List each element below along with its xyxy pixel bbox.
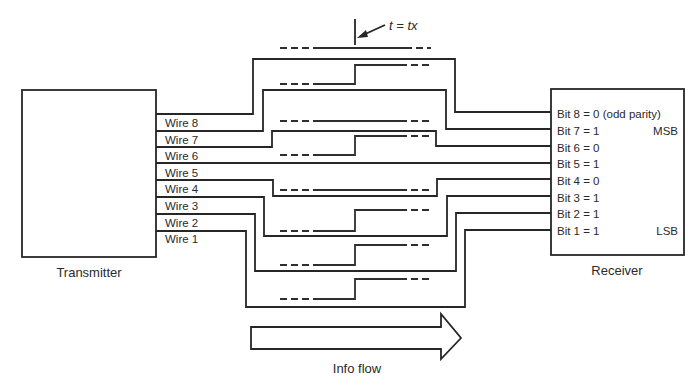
wire-label: Wire 8 xyxy=(165,117,198,129)
bit-label: Bit 3 = 1 xyxy=(557,192,600,204)
wire-label: Wire 5 xyxy=(165,167,198,179)
bit-label: Bit 6 = 0 xyxy=(557,142,600,154)
receiver-label: Receiver xyxy=(591,263,643,278)
time-marker: t = tx xyxy=(355,18,418,45)
msb-tag: MSB xyxy=(653,125,678,137)
wire-1-path xyxy=(156,230,551,307)
signal-waveforms xyxy=(280,48,431,299)
waveform-wire-7 xyxy=(280,65,431,84)
wire-4-path xyxy=(156,179,551,196)
wire-labels: Wire 8 Wire 7 Wire 6 Wire 5 Wire 4 Wire … xyxy=(165,117,199,245)
wire-label: Wire 6 xyxy=(165,150,198,162)
bit-label: Bit 7 = 1 xyxy=(557,125,600,137)
bit-label: Bit 5 = 1 xyxy=(557,158,600,170)
wire-label: Wire 2 xyxy=(165,217,198,229)
wire-label: Wire 4 xyxy=(165,183,199,195)
waveform-wire-1 xyxy=(280,279,431,299)
info-flow-arrow-icon xyxy=(251,314,461,359)
waveform-wire-5 xyxy=(280,136,431,155)
bit-label: Bit 8 = 0 (odd parity) xyxy=(557,108,661,120)
info-flow-label: Info flow xyxy=(333,361,382,376)
wire-7-path xyxy=(156,90,551,131)
bit-label: Bit 1 = 1 xyxy=(557,225,600,237)
wire-paths xyxy=(156,59,551,307)
wire-label: Wire 1 xyxy=(165,233,198,245)
waveform-wire-3 xyxy=(280,210,431,231)
wire-label: Wire 7 xyxy=(165,134,198,146)
bit-label: Bit 4 = 0 xyxy=(557,175,600,187)
transmitter-label: Transmitter xyxy=(56,265,122,280)
wire-2-path xyxy=(156,213,551,271)
time-marker-label: t = tx xyxy=(389,18,418,33)
wire-label: Wire 3 xyxy=(165,200,198,212)
transmitter-box xyxy=(22,90,156,257)
time-marker-arrowhead-icon xyxy=(357,30,368,38)
lsb-tag: LSB xyxy=(656,225,678,237)
waveform-wire-2 xyxy=(280,245,431,265)
wire-8-path xyxy=(156,59,551,114)
wire-6-path xyxy=(156,131,551,147)
bit-label: Bit 2 = 1 xyxy=(557,208,600,220)
info-flow-arrow: Info flow xyxy=(251,314,461,376)
parallel-transmission-diagram: Transmitter Receiver Wire 8 Wire 7 Wire … xyxy=(0,0,699,385)
